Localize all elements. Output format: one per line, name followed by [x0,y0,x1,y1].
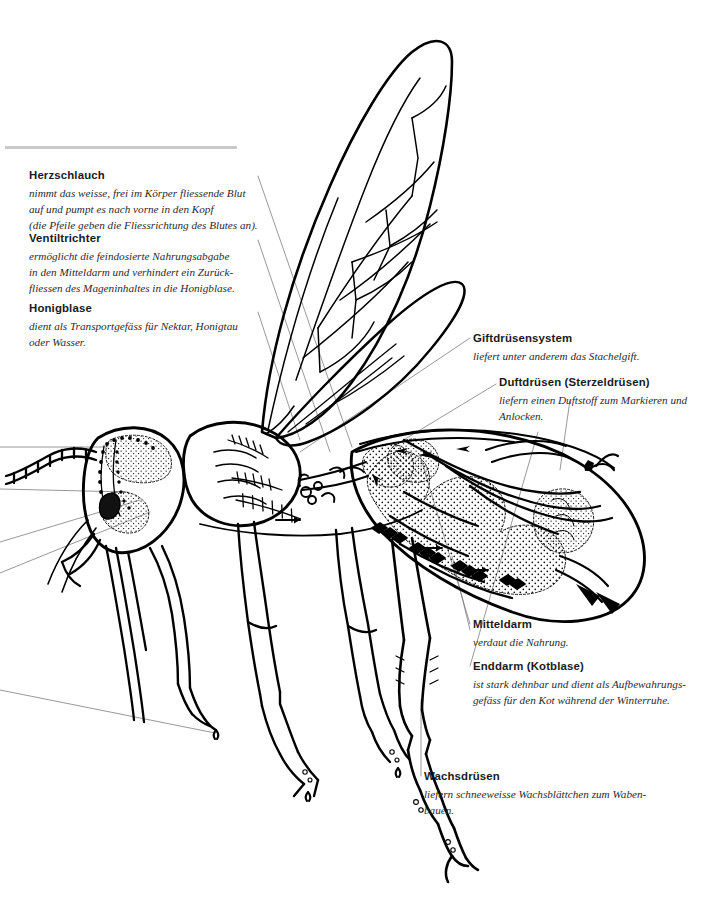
annotation-title: Duftdrüsen (Sterzeldrüsen) [499,375,687,390]
annotation-line: Anlocken. [499,409,687,425]
thorax [183,422,300,525]
annotation-description: liefern einen Duftstoff zum Markieren un… [499,393,687,425]
divider-rule [5,146,237,149]
annotation-description: dient als Transportgefäss für Nektar, Ho… [29,319,238,351]
annotation-line: liefert unter anderem das Stachelgift. [473,349,639,365]
annotation-honigblase: Honigblase dient als Transportgefäss für… [29,301,238,351]
annotation-line: ist stark dehnbar und dient als Aufbewah… [473,677,686,693]
annotation-line: nimmt das weisse, frei im Körper fliesse… [29,186,258,202]
annotation-description: ist stark dehnbar und dient als Aufbewah… [473,677,686,709]
annotation-title: Wachsdrüsen [424,769,646,784]
annotation-description: liefern schneeweisse Wachsblättchen zum … [424,787,646,819]
forewing [262,41,452,438]
annotation-title: Mitteldarm [473,617,569,632]
annotation-line: bauen. [424,803,646,819]
thorax-tracheae [214,450,266,504]
annotation-enddarm: Enddarm (Kotblase) ist stark dehnbar und… [473,659,686,709]
annotation-description: nimmt das weisse, frei im Körper fliesse… [29,186,258,234]
annotation-title: Herzschlauch [29,168,258,183]
tracheal-branches [228,435,282,490]
compound-eye [100,493,121,519]
annotation-mitteldarm: Mitteldarm verdaut die Nahrung. [473,617,569,651]
annotation-ventiltrichter: Ventiltrichter ermöglicht die feindosier… [29,231,235,297]
annotation-duftdruesen: Duftdrüsen (Sterzeldrüsen) liefern einen… [499,375,687,425]
annotation-line: fliessen des Mageninhaltes in die Honigb… [29,281,235,297]
leg-mid-front [238,522,318,801]
annotation-title: Enddarm (Kotblase) [473,659,686,674]
pollen-basket-hairs [396,656,438,684]
page-canvas: Herzschlauch nimmt das weisse, frei im K… [0,0,712,903]
annotation-title: Ventiltrichter [29,231,235,246]
hindwing [276,282,464,446]
annotation-line: verdaut die Nahrung. [473,635,569,651]
enddarm-organ [534,489,594,553]
annotation-line: in den Mitteldarm und verhindert ein Zur… [29,265,235,281]
annotation-title: Honigblase [29,301,238,316]
annotation-wachsdruesen: Wachsdrüsen liefern schneeweisse Wachsbl… [424,769,646,819]
annotation-title: Giftdrüsensystem [473,331,639,346]
leg-hind [392,538,478,882]
annotation-description: liefert unter anderem das Stachelgift. [473,349,639,365]
annotation-line: liefern schneeweisse Wachsblättchen zum … [424,787,646,803]
annotation-giftdruesensystem: Giftdrüsensystem liefert unter anderem d… [473,331,639,365]
ventiltrichter-organ [300,462,368,490]
leg-mid-rear [336,528,410,777]
bee-anatomy-illustration [0,0,712,903]
annotation-line: liefern einen Duftstoff zum Markieren un… [499,393,687,409]
annotation-line: auf und pumpt es nach vorne in den Kopf [29,202,258,218]
petiole-coils [299,468,345,504]
leg-fore [150,546,218,739]
annotation-line: gefäss für den Kot während der Winterruh… [473,693,686,709]
gift-gland-knot [584,460,594,471]
annotation-herzschlauch: Herzschlauch nimmt das weisse, frei im K… [29,168,258,234]
annotation-description: verdaut die Nahrung. [473,635,569,651]
annotation-line: oder Wasser. [29,335,238,351]
annotation-line: ermöglicht die feindosierte Nahrungsabga… [29,249,235,265]
annotation-line: dient als Transportgefäss für Nektar, Ho… [29,319,238,335]
annotation-description: ermöglicht die feindosierte Nahrungsabga… [29,249,235,297]
